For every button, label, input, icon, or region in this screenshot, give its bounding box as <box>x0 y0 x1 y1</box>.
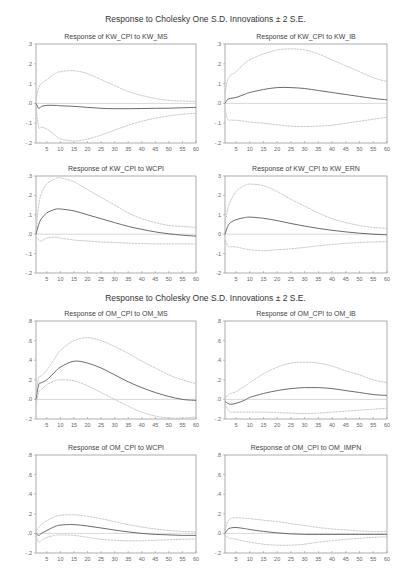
y-tick-label: .6 <box>27 338 32 344</box>
y-tick-label: 3 <box>218 173 221 179</box>
irf-panel: Response of KW_CPI to KW_MS.3.2.1.0-.1-.… <box>26 33 199 152</box>
irf-panel: Response of KW_CPI to WCPI.3.2.1.0-.1-.2… <box>26 165 199 282</box>
y-tick-label: .2 <box>216 61 221 67</box>
irf-panel: Response of KW_CPI to KW_ERN3210-1-25101… <box>216 165 390 282</box>
impulse-response-line <box>225 388 387 405</box>
x-tick-label: 45 <box>343 556 349 562</box>
x-tick-label: 50 <box>166 556 172 562</box>
plot-frame <box>225 321 387 419</box>
x-tick-label: 5 <box>45 422 48 428</box>
x-tick-label: 10 <box>57 146 63 152</box>
x-tick-label: 15 <box>71 556 77 562</box>
plot-frame <box>225 455 387 553</box>
impulse-response-line <box>225 87 387 103</box>
x-tick-label: 50 <box>166 422 172 428</box>
y-tick-label: 2 <box>218 192 221 198</box>
y-tick-label: .2 <box>216 511 221 517</box>
x-tick-label: 35 <box>125 556 131 562</box>
x-tick-label: 60 <box>384 276 390 282</box>
x-tick-label: 5 <box>45 556 48 562</box>
panel-title: Response of OM_CPI to OM_MS <box>64 310 168 318</box>
y-tick-label: .4 <box>27 357 32 363</box>
x-tick-label: 55 <box>370 556 376 562</box>
y-tick-label: -.1 <box>215 120 221 126</box>
x-tick-label: 40 <box>329 556 335 562</box>
x-tick-label: 5 <box>45 146 48 152</box>
x-tick-label: 55 <box>179 422 185 428</box>
x-tick-label: 30 <box>112 146 118 152</box>
y-tick-label: .0 <box>27 100 32 106</box>
confidence-band-line <box>225 49 387 94</box>
y-tick-label: .2 <box>27 61 32 67</box>
y-tick-label: .1 <box>216 81 221 87</box>
x-tick-label: 25 <box>98 422 104 428</box>
x-tick-label: 60 <box>193 146 199 152</box>
impulse-response-line <box>36 209 196 236</box>
x-tick-label: 10 <box>247 422 253 428</box>
y-tick-label: .4 <box>27 491 32 497</box>
panel-title: Response of KW_CPI to WCPI <box>68 165 164 173</box>
x-tick-label: 25 <box>98 556 104 562</box>
irf-panel: Response of OM_CPI to OM_MS.8.6.4.2.0-.2… <box>26 310 199 428</box>
x-tick-label: 55 <box>179 146 185 152</box>
y-tick-label: -1 <box>216 251 221 257</box>
y-tick-label: .0 <box>216 530 221 536</box>
y-tick-label: -2 <box>216 270 221 276</box>
x-tick-label: 25 <box>288 422 294 428</box>
x-tick-label: 5 <box>234 422 237 428</box>
plot-frame <box>36 44 196 143</box>
x-tick-label: 45 <box>343 422 349 428</box>
plot-frame <box>225 176 387 273</box>
x-tick-label: 25 <box>98 276 104 282</box>
panel-title: Response of OM_CPI to OM_IMPN <box>251 444 361 452</box>
confidence-band-line <box>36 535 196 542</box>
y-tick-label: -.2 <box>26 270 32 276</box>
y-tick-label: .2 <box>216 377 221 383</box>
irf-panel: Response of KW_CPI to KW_IB.3.2.1.0-.1-.… <box>215 33 390 152</box>
confidence-band-line <box>36 380 196 418</box>
x-tick-label: 15 <box>71 422 77 428</box>
x-tick-label: 10 <box>247 146 253 152</box>
y-tick-label: .2 <box>27 377 32 383</box>
x-tick-label: 50 <box>356 556 362 562</box>
impulse-response-line <box>36 361 196 400</box>
irf-panel: Response of OM_CPI to OM_IB.8.6.4.2.0-.2… <box>215 310 390 428</box>
x-tick-label: 30 <box>302 146 308 152</box>
x-tick-label: 20 <box>84 422 90 428</box>
x-tick-label: 20 <box>274 422 280 428</box>
y-tick-label: -.2 <box>26 550 32 556</box>
confidence-band-line <box>36 338 196 395</box>
y-tick-label: .1 <box>27 212 32 218</box>
x-tick-label: 25 <box>288 146 294 152</box>
y-tick-label: -.2 <box>215 140 221 146</box>
x-tick-label: 45 <box>152 276 158 282</box>
x-tick-label: 15 <box>260 422 266 428</box>
y-tick-label: -.1 <box>26 251 32 257</box>
x-tick-label: 40 <box>139 556 145 562</box>
y-tick-label: -.2 <box>26 140 32 146</box>
confidence-band-line <box>36 178 196 231</box>
x-tick-label: 50 <box>356 422 362 428</box>
x-tick-label: 35 <box>315 422 321 428</box>
panel-title: Response of OM_CPI to OM_IB <box>256 310 356 318</box>
x-tick-label: 5 <box>234 146 237 152</box>
y-tick-label: .0 <box>216 100 221 106</box>
x-tick-label: 35 <box>125 422 131 428</box>
x-tick-label: 50 <box>166 146 172 152</box>
y-tick-label: .0 <box>27 530 32 536</box>
x-tick-label: 60 <box>384 422 390 428</box>
y-tick-label: -.1 <box>26 120 32 126</box>
x-tick-label: 50 <box>356 276 362 282</box>
y-tick-label: -.2 <box>26 416 32 422</box>
x-tick-label: 10 <box>247 276 253 282</box>
x-tick-label: 10 <box>247 556 253 562</box>
panel-title: Response of KW_CPI to KW_ERN <box>252 165 360 173</box>
x-tick-label: 5 <box>45 276 48 282</box>
x-tick-label: 20 <box>84 146 90 152</box>
x-tick-label: 30 <box>302 276 308 282</box>
x-tick-label: 10 <box>57 276 63 282</box>
plot-frame <box>225 44 387 143</box>
plot-frame <box>36 455 196 553</box>
y-tick-label: .3 <box>27 173 32 179</box>
y-tick-label: .0 <box>27 396 32 402</box>
